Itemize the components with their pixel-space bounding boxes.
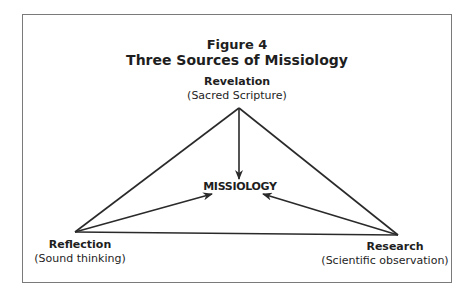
node-right-label: Research (320, 240, 460, 253)
node-top-label: Revelation (0, 75, 474, 88)
edge-top-right (239, 108, 398, 235)
figure-title: Three Sources of Missiology (0, 52, 474, 68)
figure-number: Figure 4 (0, 37, 474, 52)
node-left-sublabel: (Sound thinking) (30, 252, 130, 265)
node-left-label: Reflection (30, 238, 130, 251)
edge-top-left (75, 108, 239, 232)
arrow-reflection-to-missiology (75, 194, 212, 232)
node-top-sublabel: (Sacred Scripture) (0, 89, 474, 102)
node-center-label: MISSIOLOGY (190, 180, 290, 193)
edge-bottom (75, 232, 398, 235)
arrow-research-to-missiology (263, 194, 398, 235)
node-right-sublabel: (Scientific observation) (320, 254, 450, 267)
